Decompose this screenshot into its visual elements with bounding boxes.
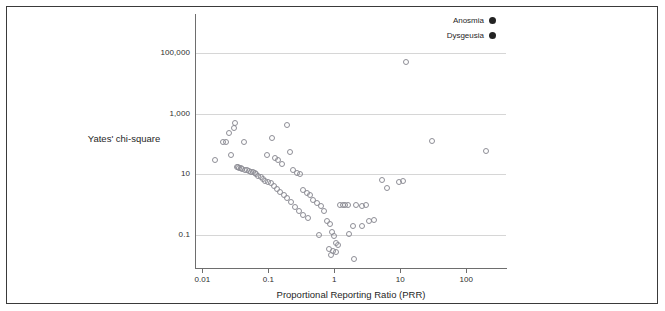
- x-tick-label: 0.1: [263, 275, 274, 284]
- y-axis-line: [195, 14, 196, 269]
- data-point: [350, 223, 356, 229]
- x-tick-label: 0.01: [194, 275, 210, 284]
- gridline-horizontal: [196, 174, 506, 175]
- data-point: [335, 242, 341, 248]
- data-point: [232, 120, 238, 126]
- data-point: [264, 152, 270, 158]
- chart-legend: AnosmiaDysgeusia: [400, 16, 496, 50]
- x-tick-label: 1: [332, 275, 337, 284]
- gridline-horizontal: [196, 114, 506, 115]
- data-point: [241, 139, 247, 145]
- data-point: [231, 125, 237, 131]
- legend-marker-icon: [489, 17, 496, 24]
- y-tick-label: 0.1: [179, 230, 190, 239]
- data-point: [226, 130, 232, 136]
- gridline-horizontal: [196, 53, 506, 54]
- data-point: [305, 215, 311, 221]
- data-point: [212, 157, 218, 163]
- data-point: [371, 217, 377, 223]
- y-tick-label: 100,000: [160, 48, 190, 57]
- data-point: [384, 185, 390, 191]
- x-tick-mark: [400, 268, 401, 273]
- data-point: [279, 161, 285, 167]
- x-axis-line: [196, 268, 507, 269]
- legend-label: Anosmia: [453, 16, 484, 25]
- y-tick-label: 10: [181, 169, 190, 178]
- legend-item: Dysgeusia: [447, 31, 496, 40]
- data-point: [331, 233, 337, 239]
- x-tick-mark: [334, 268, 335, 273]
- plot-area: [196, 14, 506, 268]
- data-point: [297, 171, 303, 177]
- data-point: [363, 202, 369, 208]
- x-tick-label: 100: [459, 275, 473, 284]
- x-tick-mark: [466, 268, 467, 273]
- x-tick-label: 10: [396, 275, 405, 284]
- data-point: [351, 256, 357, 262]
- x-tick-mark: [202, 268, 203, 273]
- plot-wrapper: 0.1101,000100,000 0.010.1110100 Proporti…: [0, 0, 665, 311]
- legend-label: Dysgeusia: [447, 31, 484, 40]
- data-point: [345, 202, 351, 208]
- legend-item: Anosmia: [453, 16, 496, 25]
- data-point: [284, 122, 290, 128]
- data-point: [269, 135, 275, 141]
- data-point: [346, 231, 352, 237]
- data-point: [403, 59, 409, 65]
- data-point: [223, 139, 229, 145]
- data-point: [228, 152, 234, 158]
- data-point: [353, 202, 359, 208]
- figure-container: 0.1101,000100,000 0.010.1110100 Proporti…: [0, 0, 665, 311]
- data-point: [400, 178, 406, 184]
- data-point: [328, 252, 334, 258]
- data-point: [429, 138, 435, 144]
- data-point: [316, 232, 322, 238]
- data-point: [379, 177, 385, 183]
- y-tick-label: 1,000: [169, 109, 190, 118]
- x-axis-title: Proportional Reporting Ratio (PRR): [196, 289, 506, 300]
- data-point: [287, 149, 293, 155]
- legend-marker-icon: [489, 32, 496, 39]
- y-axis-title: Yates' chi-square: [58, 133, 190, 144]
- data-point: [321, 208, 327, 214]
- data-point: [483, 148, 489, 154]
- x-tick-mark: [268, 268, 269, 273]
- data-point: [359, 223, 365, 229]
- data-point: [327, 221, 333, 227]
- y-axis-tick-labels: 0.1101,000100,000: [120, 0, 190, 311]
